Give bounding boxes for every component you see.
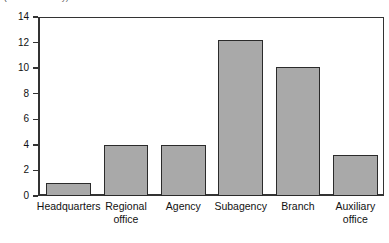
bar-slot [104, 17, 149, 196]
y-axis-tick-label: 12 [18, 37, 33, 49]
y-axis: 02468101214 [0, 0, 38, 213]
bar-series [40, 17, 384, 196]
bar-slot [333, 17, 378, 196]
y-axis-tick: 12 [18, 37, 38, 49]
y-axis-tick: 14 [18, 11, 38, 23]
bar[interactable] [276, 67, 321, 196]
y-axis-tick-label: 0 [23, 190, 33, 202]
x-axis-category-label: Auxiliaryoffice [322, 200, 389, 226]
bar[interactable] [104, 145, 149, 196]
bar-slot [276, 17, 321, 196]
bar-slot [218, 17, 263, 196]
bar-slot [161, 17, 206, 196]
y-axis-tick-label: 2 [23, 164, 33, 176]
y-axis-tick: 6 [23, 113, 38, 125]
y-axis-tick: 2 [23, 164, 38, 176]
y-axis-tick-label: 6 [23, 113, 33, 125]
bar[interactable] [46, 183, 91, 196]
y-axis-tick-label: 10 [18, 62, 33, 74]
y-axis-tick: 4 [23, 139, 38, 151]
y-axis-tick: 10 [18, 62, 38, 74]
y-axis-tick: 8 [23, 88, 38, 100]
y-axis-tick-label: 4 [23, 139, 33, 151]
bar[interactable] [333, 155, 378, 196]
bar-slot [46, 17, 91, 196]
y-axis-tick-label: 14 [18, 11, 33, 23]
x-axis-labels: HeadquartersRegionalofficeAgencySubagenc… [40, 200, 384, 242]
y-axis-tick-label: 8 [23, 88, 33, 100]
bar[interactable] [161, 145, 206, 196]
bar[interactable] [218, 40, 263, 196]
